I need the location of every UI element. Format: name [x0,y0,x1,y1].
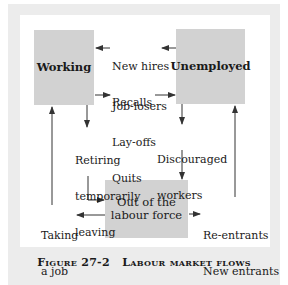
discouraged-workers-label: Discouraged workers [157,130,227,214]
figure-title: Labour market flows [122,256,251,269]
flow-line: temporarily [75,191,140,203]
flow-line: Discouraged [157,154,227,166]
working-box: Working [34,30,94,105]
flow-line: New hires [112,61,169,73]
flow-line: workers [157,190,227,202]
figure-number: Figure 27-2 [37,256,110,269]
flow-line: leaving [75,227,140,239]
flow-line: Retiring [75,155,140,167]
unemployed-label: Unemployed [171,60,251,73]
flow-line: Taking [41,230,78,242]
unemployed-box: Unemployed [176,29,245,104]
flow-line: Re-entrants [203,230,279,242]
re-entrants-label: Re-entrants New entrants [203,206,279,285]
taking-a-job-label: Taking a job [41,206,78,285]
retiring-label: Retiring temporarily leaving [75,131,140,251]
working-label: Working [37,61,91,74]
flow-line: Job-losers [112,101,167,113]
figure-caption: Figure 27-2 Labour market flows [0,256,288,269]
